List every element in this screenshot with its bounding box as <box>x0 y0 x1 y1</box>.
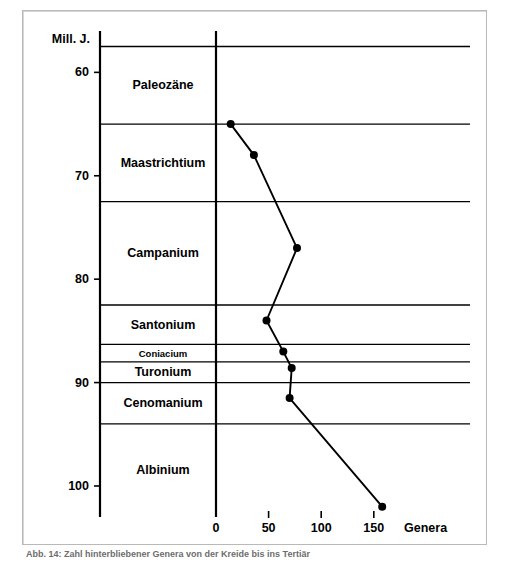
stage-label-albinium: Albinium <box>136 463 189 477</box>
data-point-marker[interactable] <box>279 348 287 356</box>
x-tick-label-50: 50 <box>262 521 276 535</box>
data-point-marker[interactable] <box>250 151 258 159</box>
figure-page: Mill. J. Genera PaleozäneMaastrichtiumCa… <box>0 0 505 562</box>
figure-caption: Abb. 14: Zahl hinterbliebener Genera von… <box>26 549 496 559</box>
x-tick-label-0: 0 <box>213 521 220 535</box>
stage-label-santonium: Santonium <box>131 318 196 332</box>
y-tick-label-70: 70 <box>75 169 89 183</box>
y-tick-label-90: 90 <box>75 376 89 390</box>
y-tick-label-60: 60 <box>75 65 89 79</box>
x-axis-title: Genera <box>404 521 447 535</box>
stage-label-cenomanium: Cenomanium <box>123 396 202 410</box>
data-point-marker[interactable] <box>227 120 235 128</box>
y-tick-label-80: 80 <box>75 272 89 286</box>
data-point-marker[interactable] <box>293 244 301 252</box>
stage-label-campanium: Campanium <box>127 246 199 260</box>
y-axis-title: Mill. J. <box>52 32 90 46</box>
data-point-marker[interactable] <box>288 364 296 372</box>
data-point-marker[interactable] <box>286 394 294 402</box>
data-point-marker[interactable] <box>378 503 386 511</box>
stage-label-coniacium: Coniacium <box>139 348 188 359</box>
stage-label-paleozäne: Paleozäne <box>132 78 193 92</box>
data-line <box>231 124 383 507</box>
x-tick-label-100: 100 <box>311 521 332 535</box>
stage-label-maastrichtium: Maastrichtium <box>121 156 206 170</box>
x-tick-label-150: 150 <box>363 521 384 535</box>
data-point-marker[interactable] <box>263 317 271 325</box>
stage-label-turonium: Turonium <box>135 365 192 379</box>
y-tick-label-100: 100 <box>68 479 89 493</box>
